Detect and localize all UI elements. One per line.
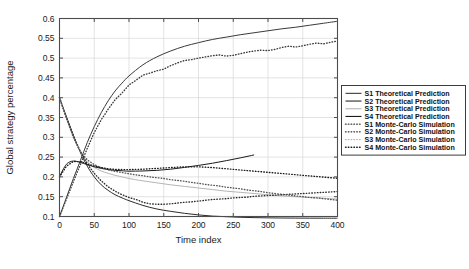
x-tick-label: 100	[122, 220, 136, 230]
x-tick-label: 250	[226, 220, 240, 230]
y-tick-label: 0.5	[43, 53, 55, 63]
y-tick-label: 0.1	[43, 212, 55, 222]
x-tick-label: 300	[261, 220, 275, 230]
y-tick-label: 0.15	[38, 192, 55, 202]
y-tick-label: 0.55	[38, 33, 55, 43]
y-tick-label: 0.25	[38, 152, 55, 162]
x-tick-label: 50	[90, 220, 100, 230]
x-tick-label: 350	[296, 220, 310, 230]
x-tick-label: 0	[57, 220, 62, 230]
legend[interactable]: S1 Theoretical PredictionS2 Theoretical …	[342, 86, 466, 156]
figure-canvas: 050100150200250300350400 0.10.150.20.250…	[0, 0, 469, 269]
y-tick-label: 0.35	[38, 113, 55, 123]
y-tick-label: 0.45	[38, 73, 55, 83]
y-tick-label: 0.2	[43, 172, 55, 182]
y-tick-label: 0.4	[43, 93, 55, 103]
x-tick-label: 150	[157, 220, 171, 230]
y-axis-title: Global strategy percentage	[4, 60, 15, 174]
chart-svg: 050100150200250300350400 0.10.150.20.250…	[0, 0, 469, 269]
x-tick-label: 200	[191, 220, 205, 230]
x-tick-label: 400	[330, 220, 344, 230]
legend-label[interactable]: S4 Monte-Carlo Simulation	[365, 144, 455, 152]
x-axis-title: Time index	[175, 234, 221, 245]
y-tick-label: 0.6	[43, 14, 55, 24]
y-tick-label: 0.3	[43, 132, 55, 142]
